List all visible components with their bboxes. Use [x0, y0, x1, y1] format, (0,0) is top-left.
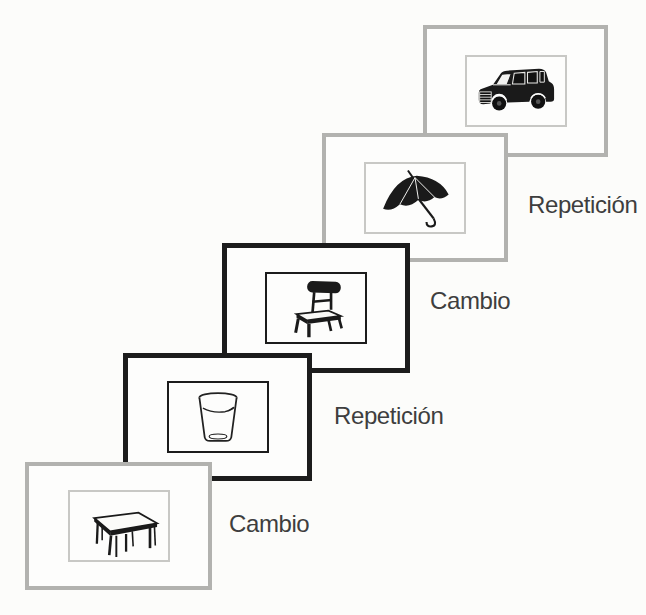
umbrella-icon: [370, 167, 460, 229]
card-inner-mat: [68, 490, 170, 562]
condition-label-cambio-chair: Cambio: [430, 288, 510, 314]
figure-canvas: Repetición Cambio Repetición Cambio: [0, 0, 646, 615]
card-inner-mat: [364, 162, 466, 234]
table-icon: [74, 495, 164, 557]
card-inner-mat: [465, 55, 567, 127]
card-inner-mat: [167, 381, 269, 453]
drinking-glass-icon: [173, 386, 263, 448]
chair-icon: [271, 277, 361, 339]
suv-car-icon: [471, 60, 561, 122]
stimulus-card-table: [25, 462, 212, 590]
card-inner-mat: [265, 272, 367, 344]
condition-label-repeticion-glass: Repetición: [334, 403, 443, 429]
condition-label-cambio-table: Cambio: [229, 511, 309, 537]
condition-label-repeticion-umbrella: Repetición: [528, 192, 637, 218]
